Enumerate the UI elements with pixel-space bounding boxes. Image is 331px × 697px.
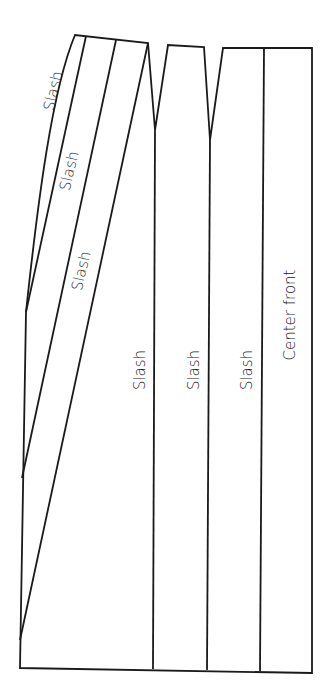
diag-slash-label-1: Slash (40, 69, 67, 112)
diag-slash-label-3: Slash (68, 249, 95, 292)
diagonal-slash-line-3 (20, 43, 148, 640)
pattern-outline (20, 35, 312, 673)
vert-slash-label-2: Slash (185, 350, 203, 390)
vert-slash-label-1: Slash (131, 350, 149, 390)
vertical-slash-line-1 (153, 130, 155, 669)
center-front-label: Center front (281, 269, 299, 360)
vertical-slash-line-3 (260, 48, 264, 671)
vertical-slash-line-2 (207, 140, 210, 670)
vert-slash-label-3: Slash (238, 350, 256, 390)
pattern-diagram: Slash Slash Slash Slash Slash Slash Cent… (0, 0, 331, 697)
